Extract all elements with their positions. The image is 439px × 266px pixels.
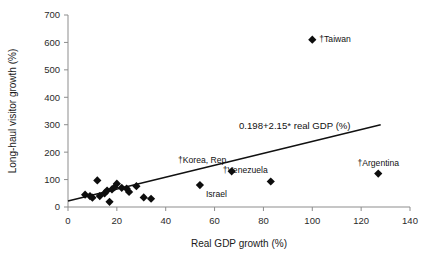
data-point-marker xyxy=(105,198,113,206)
data-point-marker xyxy=(93,176,101,184)
regression-equation: 0.198+2.15* real GDP (%) xyxy=(239,120,351,131)
data-point-marker xyxy=(308,36,316,44)
x-tick-label: 60 xyxy=(209,215,220,226)
data-point-marker xyxy=(374,169,382,177)
y-tick-label: 600 xyxy=(44,37,60,48)
data-point-label: †Argentina xyxy=(357,158,399,168)
y-axis-title: Long-haul visitor growth (%) xyxy=(7,49,18,174)
data-point-marker xyxy=(140,193,148,201)
y-tick-label: 300 xyxy=(44,119,60,130)
y-tick-label: 700 xyxy=(44,9,60,20)
data-point-labels: Israel†Korea, Rep.†Venezuela†Taiwan†Arge… xyxy=(178,34,399,199)
x-tick-label: 0 xyxy=(65,215,70,226)
chart-canvas: 0100200300400500600700 02040608010012014… xyxy=(0,0,439,266)
x-tick-label: 40 xyxy=(160,215,171,226)
y-tick-label: 0 xyxy=(55,201,60,212)
y-tick-label: 400 xyxy=(44,92,60,103)
chart-annotations: 0.198+2.15* real GDP (%) xyxy=(239,120,351,131)
data-point-marker xyxy=(267,177,275,185)
y-tick-label: 500 xyxy=(44,64,60,75)
data-point-marker xyxy=(147,195,155,203)
data-point-label: †Taiwan xyxy=(319,34,351,44)
data-point-marker xyxy=(196,181,204,189)
data-point-label: †Venezuela xyxy=(223,165,268,175)
data-point-label: †Korea, Rep. xyxy=(178,155,229,165)
scatter-chart: 0100200300400500600700 02040608010012014… xyxy=(0,0,439,266)
y-tick-label: 200 xyxy=(44,147,60,158)
data-point-label: Israel xyxy=(206,189,227,199)
x-axis: 020406080100120140 xyxy=(65,207,418,226)
x-tick-label: 80 xyxy=(258,215,269,226)
y-axis: 0100200300400500600700 xyxy=(44,9,68,212)
x-tick-label: 120 xyxy=(353,215,369,226)
y-tick-label: 100 xyxy=(44,174,60,185)
x-axis-title: Real GDP growth (%) xyxy=(191,238,287,249)
x-tick-label: 20 xyxy=(112,215,123,226)
x-tick-label: 100 xyxy=(304,215,320,226)
x-tick-label: 140 xyxy=(402,215,418,226)
